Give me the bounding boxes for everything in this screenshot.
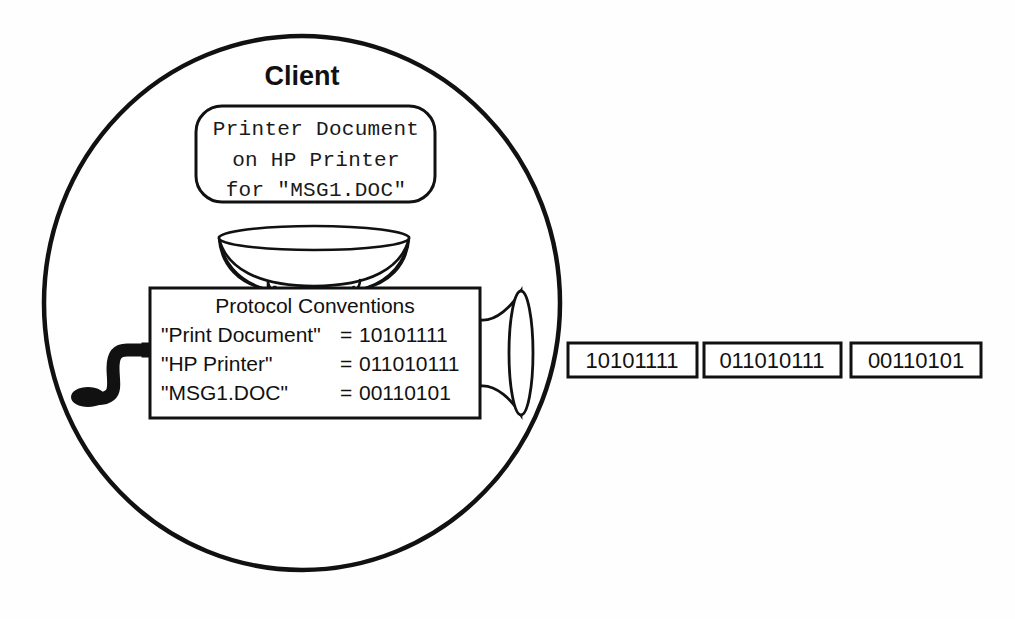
protocol-encoding-diagram: Client Printer Document on HP Printer fo… [0, 0, 1015, 619]
protocol-row-key-3: "MSG1.DOC" [161, 381, 288, 404]
output-bits-label-3: 00110101 [868, 348, 964, 373]
message-box-line-3: for "MSG1.DOC" [226, 179, 407, 202]
protocol-row-eq-3: = [340, 381, 352, 404]
client-title: Client [264, 61, 339, 91]
message-box-line-2: on HP Printer [232, 149, 400, 172]
message-box-line-1: Printer Document [213, 118, 419, 141]
hopper-rim-ellipse [219, 226, 409, 250]
protocol-row-eq-1: = [340, 323, 352, 346]
protocol-row-value-1: 10101111 [359, 323, 448, 346]
protocol-row-value-3: 00110101 [359, 381, 451, 404]
output-horn-mouth-ellipse [509, 291, 533, 415]
output-bits-label-1: 10101111 [586, 348, 679, 373]
protocol-heading: Protocol Conventions [215, 294, 415, 317]
protocol-row-value-2: 011010111 [359, 352, 459, 375]
protocol-row-key-2: "HP Printer" [161, 352, 272, 375]
protocol-row-key-1: "Print Document" [161, 323, 321, 346]
protocol-row-eq-2: = [340, 352, 352, 375]
output-bits-label-2: 011010111 [719, 348, 824, 373]
crank-handle-knob [72, 388, 104, 406]
